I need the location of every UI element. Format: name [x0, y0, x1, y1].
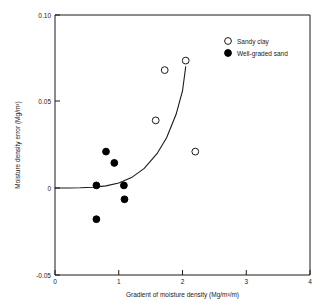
data-point-well-graded-sand	[93, 182, 100, 189]
x-tick-labels: 0 1 2 3 4	[53, 278, 312, 285]
data-point-well-graded-sand	[111, 160, 118, 167]
y-tick-label-0.05: 0.05	[38, 98, 51, 105]
scatter-plot: 0.10 0.05 0 -0.05 0 1 2 3 4 Gradient of …	[0, 0, 327, 305]
legend-label-well-graded-sand: Well-graded sand	[237, 50, 288, 58]
data-point-sandy-clay	[182, 57, 189, 64]
y-tick-label-0: 0	[47, 185, 51, 192]
series-sandy-clay-points	[152, 57, 198, 155]
x-tick-label-4: 4	[308, 278, 312, 285]
data-point-sandy-clay	[192, 148, 199, 155]
legend-label-sandy-clay: Sandy clay	[237, 38, 270, 46]
x-tick-label-3: 3	[244, 278, 248, 285]
data-point-sandy-clay	[152, 117, 159, 124]
y-tick-labels: 0.10 0.05 0 -0.05	[36, 12, 51, 279]
y-tick-label-0.10: 0.10	[38, 12, 51, 19]
chart-figure: 0.10 0.05 0 -0.05 0 1 2 3 4 Gradient of …	[0, 0, 327, 305]
x-axis-title: Gradient of moisture density (Mg/m³/m)	[126, 291, 239, 299]
data-point-sandy-clay	[161, 67, 168, 74]
chart-legend: Sandy clay Well-graded sand	[225, 38, 289, 58]
y-tick-label-neg0.05: -0.05	[36, 272, 51, 279]
x-tick-label-1: 1	[117, 278, 121, 285]
data-point-well-graded-sand	[93, 216, 100, 223]
legend-marker-sandy-clay	[225, 38, 232, 45]
data-point-well-graded-sand	[121, 182, 128, 189]
legend-marker-well-graded-sand	[225, 50, 232, 57]
data-point-well-graded-sand	[103, 148, 110, 155]
x-tick-marks	[55, 270, 310, 275]
data-point-well-graded-sand	[121, 196, 128, 203]
y-axis-title: Moisture density error (Mg/m³)	[14, 101, 22, 188]
trend-curve	[55, 67, 186, 188]
x-tick-label-0: 0	[53, 278, 57, 285]
y-tick-marks	[55, 15, 60, 275]
x-tick-label-2: 2	[181, 278, 185, 285]
